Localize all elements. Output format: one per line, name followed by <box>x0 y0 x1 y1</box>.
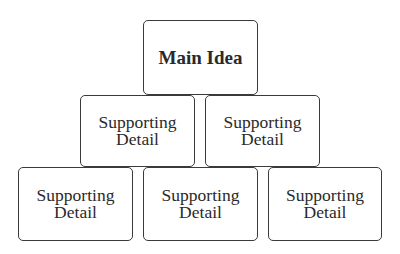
supporting-detail-label: Supporting Detail <box>37 187 115 221</box>
supporting-detail-box-3-2: Supporting Detail <box>143 167 258 241</box>
supporting-detail-line-2: Detail <box>37 204 115 221</box>
supporting-detail-line-2: Detail <box>99 131 177 148</box>
main-idea-box: Main Idea <box>143 20 258 95</box>
supporting-detail-label: Supporting Detail <box>99 114 177 148</box>
supporting-detail-label: Supporting Detail <box>286 187 364 221</box>
supporting-detail-label: Supporting Detail <box>162 187 240 221</box>
supporting-detail-box-3-1: Supporting Detail <box>18 167 133 241</box>
supporting-detail-box-2-1: Supporting Detail <box>80 95 195 167</box>
supporting-detail-label: Supporting Detail <box>224 114 302 148</box>
main-idea-text: Main Idea <box>159 49 243 66</box>
supporting-detail-line-2: Detail <box>162 204 240 221</box>
supporting-detail-line-2: Detail <box>286 204 364 221</box>
main-idea-label: Main Idea <box>159 49 243 66</box>
supporting-detail-box-2-2: Supporting Detail <box>205 95 320 167</box>
supporting-detail-line-2: Detail <box>224 131 302 148</box>
supporting-detail-box-3-3: Supporting Detail <box>268 167 382 241</box>
